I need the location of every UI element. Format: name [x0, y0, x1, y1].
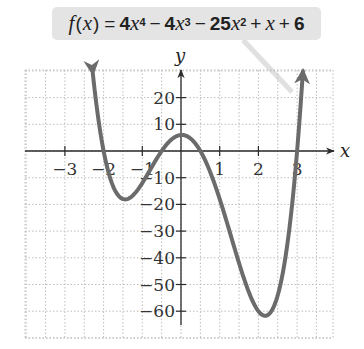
y-tick-label: −60: [139, 301, 175, 321]
y-tick-label: −50: [139, 275, 175, 295]
y-axis-label: y: [174, 45, 186, 66]
x-axis-label: x: [340, 140, 350, 161]
chart-plot: −3−2−11232010−10−20−30−40−50−60 x y: [0, 0, 364, 349]
y-tick-label: 10: [153, 114, 175, 134]
x-tick-label: 1: [214, 159, 225, 179]
function-curve: [93, 71, 303, 316]
y-tick-label: −40: [139, 248, 175, 268]
x-tick-label: 2: [253, 159, 264, 179]
x-tick-label: −3: [52, 159, 77, 179]
y-tick-label: −20: [139, 194, 175, 214]
callout-pointer: [243, 40, 292, 92]
axis-ticks: −3−2−11232010−10−20−30−40−50−60: [52, 88, 302, 322]
y-tick-label: −30: [139, 221, 175, 241]
x-tick-label: −2: [91, 159, 116, 179]
y-tick-label: 20: [153, 88, 175, 108]
